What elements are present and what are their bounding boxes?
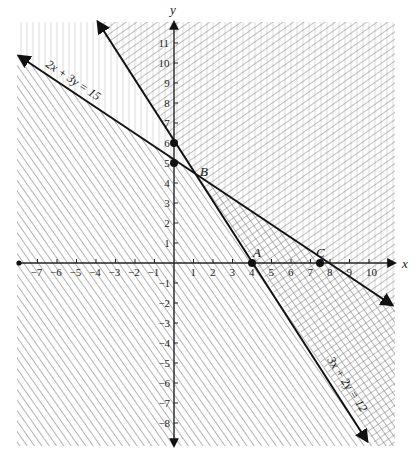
y-tick-label: 10 bbox=[158, 57, 170, 69]
point-0-5 bbox=[170, 159, 178, 167]
x-tick-label: −4 bbox=[89, 266, 101, 278]
x-tick-label: 1 bbox=[191, 266, 197, 278]
y-tick-label: −7 bbox=[158, 397, 170, 409]
y-tick-label: −8 bbox=[158, 417, 170, 429]
x-tick-label: −6 bbox=[50, 266, 62, 278]
point-A bbox=[248, 259, 256, 267]
point-C bbox=[316, 259, 324, 267]
x-tick-label: −2 bbox=[128, 266, 140, 278]
x-tick-label: 10 bbox=[366, 266, 378, 278]
y-tick-label: −6 bbox=[158, 377, 170, 389]
y-tick-label: −5 bbox=[158, 357, 170, 369]
point-C-label: C bbox=[316, 245, 325, 260]
y-tick-label: 8 bbox=[164, 97, 170, 109]
x-tick-label: 3 bbox=[230, 266, 236, 278]
figure-caption-cutoff bbox=[0, 449, 420, 457]
y-tick-label: −3 bbox=[158, 317, 170, 329]
x-axis-label: x bbox=[401, 256, 408, 271]
x-tick-label: 2 bbox=[210, 266, 216, 278]
y-tick-label: 6 bbox=[164, 137, 170, 149]
x-axis-left-end bbox=[16, 260, 21, 265]
y-tick-label: −4 bbox=[158, 337, 170, 349]
y-tick-label: 5 bbox=[164, 157, 170, 169]
x-tick-label: −3 bbox=[109, 266, 121, 278]
x-tick-label: 8 bbox=[327, 266, 333, 278]
y-axis-label: y bbox=[168, 2, 176, 17]
y-tick-label: 9 bbox=[164, 77, 170, 89]
x-tick-label: 5 bbox=[269, 266, 275, 278]
x-tick-label: −7 bbox=[31, 266, 43, 278]
x-tick-label: −5 bbox=[70, 266, 82, 278]
x-tick-label: 4 bbox=[249, 266, 255, 278]
point-0-6 bbox=[170, 139, 178, 147]
point-A-label: A bbox=[252, 245, 261, 260]
x-tick-label: 7 bbox=[308, 266, 314, 278]
y-tick-label: 3 bbox=[164, 197, 170, 209]
y-tick-label: 11 bbox=[158, 37, 169, 49]
y-tick-label: −2 bbox=[158, 297, 170, 309]
y-tick-label: 1 bbox=[164, 237, 170, 249]
point-B-label: B bbox=[200, 164, 208, 179]
y-tick-label: 2 bbox=[164, 217, 170, 229]
y-tick-label: −1 bbox=[158, 277, 170, 289]
linear-inequalities-graph: x y −7−6−5−4−3−2−112345678910−8−7−6−5−4−… bbox=[0, 0, 420, 457]
y-tick-label: 4 bbox=[164, 177, 170, 189]
x-tick-label: 6 bbox=[288, 266, 294, 278]
